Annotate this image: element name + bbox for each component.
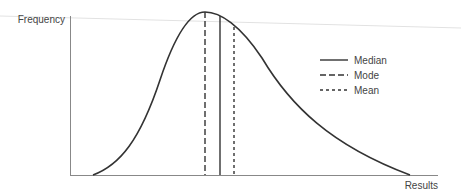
legend: Median Mode Mean (320, 55, 387, 96)
legend-median-label: Median (354, 55, 387, 66)
legend-mode-label: Mode (354, 70, 379, 81)
x-axis-label: Results (405, 180, 438, 191)
skewed-distribution-chart: Frequency Results Median Mode Mean (0, 0, 461, 193)
legend-mean-label: Mean (354, 85, 379, 96)
y-axis-label: Frequency (18, 14, 65, 25)
